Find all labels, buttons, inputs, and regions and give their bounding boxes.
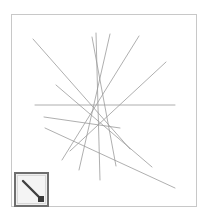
app-root xyxy=(0,0,209,216)
diagonal-line-icon xyxy=(16,174,47,205)
line-tool-button[interactable] xyxy=(14,172,49,207)
